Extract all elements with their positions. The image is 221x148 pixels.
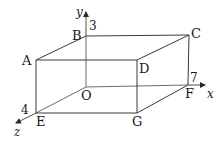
vertex-label-A: A [21, 53, 32, 68]
axis-label-x: x [207, 87, 214, 101]
vertex-label-G: G [132, 114, 142, 129]
vertex-label-F: F [185, 86, 194, 101]
dimension-label-OE: 4 [21, 103, 29, 117]
axis-label-z: z [13, 125, 21, 139]
vertex-label-B: B [72, 28, 82, 43]
dimension-label-OB: 3 [89, 19, 97, 33]
vertex-label-C: C [191, 26, 201, 41]
edge-CF [188, 35, 189, 85]
edge-DC [137, 35, 189, 60]
dimension-label-OF: 7 [190, 71, 198, 85]
diagram-canvas: A B C D E F G O y x z 3 7 4 [0, 0, 221, 148]
vertex-label-O: O [81, 88, 92, 103]
edge-BC [86, 35, 189, 36]
cuboid-diagram: A B C D E F G O y x z 3 7 4 [0, 0, 221, 148]
vertex-label-D: D [139, 61, 149, 76]
edge-GF [137, 85, 188, 113]
axis-label-y: y [75, 5, 83, 19]
edge-OE [36, 87, 86, 113]
vertex-label-E: E [36, 114, 46, 129]
